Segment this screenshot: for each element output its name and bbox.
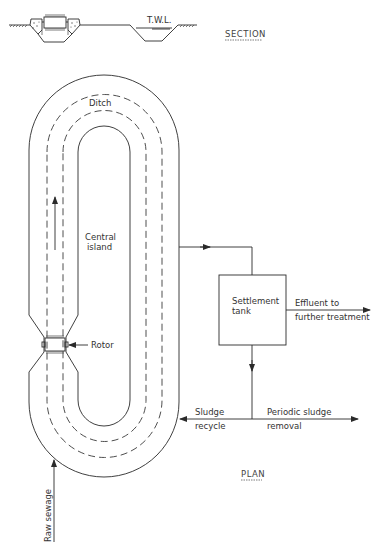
ditch-label: Ditch [89,98,111,108]
concrete-wall-left [30,19,42,34]
effluent-label-line2: further treatment [295,312,370,322]
settlement-tank-label-line1: Settlement [232,296,280,306]
concrete-stipple-right [70,21,77,27]
rotor-label: Rotor [91,340,114,350]
twl-label: T.W.L. [146,15,171,25]
concrete-stipple-left [32,21,39,28]
concrete-wall-right [68,19,80,34]
sludge-recycle-label-line2: recycle [195,421,226,431]
settlement-tank [219,275,286,345]
ditch-dashed-inner [63,111,146,442]
ditch-dashed-outer [47,95,162,458]
settlement-tank-label-line2: tank [232,306,251,316]
ground-hatch-right [178,25,197,27]
ground-hatch-left [9,25,30,27]
raw-sewage-label: Raw sewage [43,489,53,542]
ditch-section-right [130,25,178,41]
plan-view: Ditch Central island Rotor Settlement ta… [29,75,370,542]
effluent-label-line1: Effluent to [295,298,339,308]
plan-title: PLAN [241,469,265,479]
rotor-plan-icon [42,335,68,354]
periodic-removal-label-line2: removal [267,421,302,431]
central-island-wall [66,126,130,426]
outlet-pipe [179,247,252,275]
periodic-removal-label-line1: Periodic sludge [267,407,331,417]
ditch-section-left [38,34,72,42]
central-island-label-line1: Central [85,232,116,242]
outer-wall [29,75,179,477]
section-title: SECTION [225,29,266,39]
section-view: T.W.L. SECTION [9,14,266,42]
rotor-section-icon [42,14,68,31]
oxidation-ditch-diagram: T.W.L. SECTION Ditch Central island [0,0,381,555]
central-island-label-line2: island [87,242,112,252]
sludge-recycle-label-line1: Sludge [195,407,224,417]
